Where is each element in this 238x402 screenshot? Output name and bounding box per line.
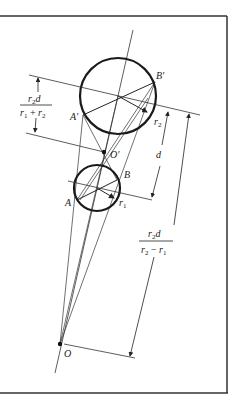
label-r2: r2 <box>154 116 162 129</box>
diameter-A-B <box>77 180 117 200</box>
label-B-prime: B′ <box>156 70 165 81</box>
radius-r2-arrow <box>118 96 147 112</box>
label-d: d <box>156 149 162 160</box>
point-O-prime-dot <box>102 150 106 154</box>
label-A: A <box>64 197 72 208</box>
left-fraction-label: r2d r1 + r2 <box>20 93 52 120</box>
svg-text:r2 − r1: r2 − r1 <box>141 244 167 257</box>
right-fraction-label: r2d r2 − r1 <box>139 228 173 257</box>
homothety-circles-diagram: O O′ A B A′ B′ r2 r1 d r2d r1 + r2 r2d r… <box>0 0 238 402</box>
svg-text:r1 + r2: r1 + r2 <box>20 107 46 120</box>
label-O: O <box>64 348 71 359</box>
svg-text:r2d: r2d <box>28 93 41 106</box>
label-O-prime: O′ <box>110 149 120 160</box>
label-B: B <box>124 169 130 180</box>
label-A-prime: A′ <box>69 111 79 122</box>
dimension-arrows <box>35 78 189 356</box>
point-O-dot <box>58 342 62 346</box>
label-r1: r1 <box>119 197 127 210</box>
svg-text:r2d: r2d <box>148 228 161 241</box>
